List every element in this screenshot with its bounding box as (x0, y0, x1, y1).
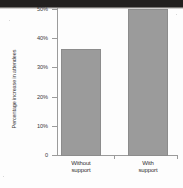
y-tick-label-50: 50% (18, 6, 48, 12)
y-axis-line (57, 8, 58, 156)
x-label-without-support-line2: support (58, 167, 104, 174)
x-label-with-support-line1: With (125, 160, 171, 167)
y-axis-title: Percentage increase in attendees (11, 29, 17, 149)
y-tick-10 (52, 126, 57, 127)
y-tick-label-10: 10% (18, 123, 48, 129)
bar-without-support (61, 49, 101, 156)
x-label-without-support: Without support (58, 160, 104, 175)
paper-speckle (9, 20, 10, 21)
paper-speckle (176, 14, 177, 15)
x-label-with-support: With support (125, 160, 171, 175)
paper-speckle (3, 176, 4, 177)
y-tick-30 (52, 67, 57, 68)
x-label-without-support-line1: Without (58, 160, 104, 167)
y-tick-label-0: 0 (18, 152, 48, 158)
y-tick-label-20: 20% (18, 94, 48, 100)
y-tick-0 (52, 155, 57, 156)
x-tick-right (177, 155, 178, 159)
y-tick-label-30: 30% (18, 64, 48, 70)
x-label-with-support-line2: support (125, 167, 171, 174)
chart-figure: 50% 40% 30% 20% 10% 0 Without support Wi… (0, 0, 183, 188)
y-tick-20 (52, 97, 57, 98)
x-tick-separator (114, 155, 115, 159)
bar-with-support (128, 9, 168, 156)
y-tick-label-40: 40% (18, 35, 48, 41)
plot-area: 50% 40% 30% 20% 10% 0 Without support Wi… (0, 0, 183, 188)
y-tick-40 (52, 38, 57, 39)
y-tick-50 (52, 9, 57, 10)
